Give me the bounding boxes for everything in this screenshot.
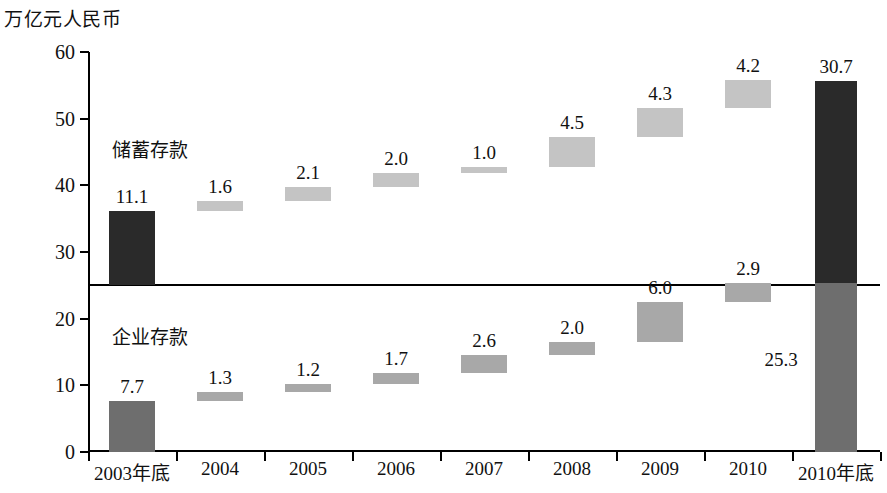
bar (197, 201, 243, 212)
bar-value-label: 2.9 (736, 258, 760, 280)
bar (815, 283, 857, 452)
bar-value-label: 1.2 (296, 359, 320, 381)
bar-value-label: 4.3 (648, 83, 672, 105)
bar-value-label: 4.5 (560, 112, 584, 134)
x-tick-mark (264, 452, 266, 461)
series-label-corporate: 企业存款 (112, 322, 188, 349)
bar-value-label: 2.6 (472, 330, 496, 352)
x-tick-mark (352, 452, 354, 461)
y-tick-label: 40 (55, 174, 75, 197)
x-tick-label: 2010年底 (798, 458, 874, 485)
y-tick-label: 0 (65, 441, 75, 464)
bar-value-label: 2.0 (384, 148, 408, 170)
chart-page: 万亿元人民币 0102030405060 2003年底2004200520062… (0, 0, 887, 493)
bar-value-label: 1.6 (208, 176, 232, 198)
bar-value-label: 1.7 (384, 348, 408, 370)
x-tick-mark (880, 452, 882, 461)
bar-value-label: 7.7 (120, 376, 144, 398)
x-tick-label: 2004 (201, 458, 239, 480)
x-tick-label: 2009 (641, 458, 679, 480)
x-tick-label: 2006 (377, 458, 415, 480)
x-tick-label: 2003年底 (94, 458, 170, 485)
y-tick-label: 10 (55, 374, 75, 397)
bar (461, 167, 507, 174)
x-tick-mark (792, 452, 794, 461)
bar (461, 355, 507, 372)
bar (285, 187, 331, 201)
bar (373, 373, 419, 384)
y-tick-mark (80, 51, 89, 53)
bar (549, 342, 595, 355)
bar-value-label: 1.0 (472, 142, 496, 164)
x-tick-label: 2010 (729, 458, 767, 480)
bar (725, 283, 771, 302)
bar (109, 401, 155, 452)
y-tick-mark (80, 184, 89, 186)
x-tick-label: 2008 (553, 458, 591, 480)
bar-value-label: 11.1 (116, 186, 149, 208)
series-label-savings: 储蓄存款 (112, 135, 188, 162)
x-tick-label: 2005 (289, 458, 327, 480)
bar-value-label: 2.0 (560, 317, 584, 339)
plot-area: 0102030405060 2003年底20042005200620072008… (88, 52, 880, 452)
x-tick-label: 2007 (465, 458, 503, 480)
x-tick-mark (528, 452, 530, 461)
y-tick-mark (80, 318, 89, 320)
y-tick-label: 20 (55, 307, 75, 330)
bar (285, 384, 331, 392)
bar (637, 302, 683, 342)
x-axis-line (88, 450, 880, 452)
y-tick-mark (80, 384, 89, 386)
x-tick-mark (176, 452, 178, 461)
y-tick-mark (80, 118, 89, 120)
bar-value-label: 1.3 (208, 367, 232, 389)
y-tick-mark (80, 251, 89, 253)
y-axis-unit-label: 万亿元人民币 (4, 4, 121, 31)
y-tick-label: 50 (55, 107, 75, 130)
x-tick-mark (616, 452, 618, 461)
bar-value-label: 6.0 (648, 277, 672, 299)
bar (725, 80, 771, 108)
bar (373, 173, 419, 186)
bar (549, 137, 595, 167)
bar-value-label: 25.3 (764, 349, 797, 371)
x-tick-mark (704, 452, 706, 461)
bar-value-label: 2.1 (296, 162, 320, 184)
y-tick-label: 30 (55, 241, 75, 264)
bar (197, 392, 243, 401)
bar (815, 81, 857, 286)
bar (109, 211, 155, 285)
bar-value-label: 4.2 (736, 55, 760, 77)
bar (637, 108, 683, 137)
y-tick-label: 60 (55, 41, 75, 64)
x-tick-mark (88, 452, 90, 461)
x-tick-mark (440, 452, 442, 461)
bar-value-label: 30.7 (819, 56, 852, 78)
